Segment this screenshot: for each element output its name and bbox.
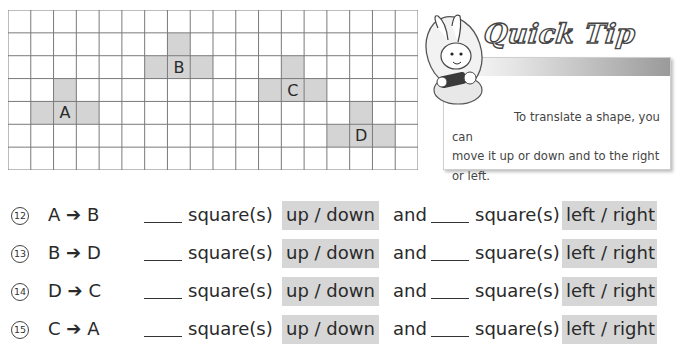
tip-line-2: move it up or down and to the right	[452, 147, 668, 167]
squares-label: square(s)	[475, 242, 560, 263]
from-shape: A	[48, 204, 60, 225]
question-number: 12	[11, 207, 29, 225]
up-down-text: up / down	[286, 318, 375, 339]
translation-pair: C ➔ A	[48, 318, 99, 339]
to-shape: D	[87, 242, 101, 263]
vertical-squares-blank[interactable]	[144, 298, 182, 299]
arrow-icon: ➔	[66, 318, 81, 339]
squares-label: square(s)	[475, 204, 560, 225]
horizontal-squares-blank[interactable]	[431, 298, 469, 299]
arrow-icon: ➔	[68, 280, 83, 301]
horizontal-squares-blank[interactable]	[431, 336, 469, 337]
question-number: 13	[11, 245, 29, 263]
to-shape: B	[87, 204, 99, 225]
vertical-squares-blank[interactable]	[144, 260, 182, 261]
up-down-choice[interactable]: up / down	[282, 239, 379, 268]
bunny-mascot-icon	[424, 10, 488, 112]
vertical-squares-blank[interactable]	[144, 336, 182, 337]
tip-text: To translate a shape, you can move it up…	[452, 108, 668, 186]
up-down-text: up / down	[286, 204, 375, 225]
squares-label: square(s)	[188, 204, 273, 225]
question-number: 14	[11, 283, 29, 301]
shape-label-d: D	[350, 124, 373, 147]
squares-label: square(s)	[475, 280, 560, 301]
to-shape: A	[87, 318, 99, 339]
translation-pair: A ➔ B	[48, 204, 99, 225]
and-label: and	[393, 242, 427, 263]
translation-pair: B ➔ D	[48, 242, 101, 263]
horizontal-squares-blank[interactable]	[431, 260, 469, 261]
question-row: 12 A ➔ B square(s) up / down and square(…	[0, 201, 685, 231]
left-right-text: left / right	[566, 280, 655, 301]
from-shape: C	[48, 318, 61, 339]
shape-label-b: B	[167, 56, 190, 79]
left-right-choice[interactable]: left / right	[562, 239, 657, 268]
translation-pair: D ➔ C	[48, 280, 101, 301]
squares-label: square(s)	[188, 280, 273, 301]
tip-title: Quick Tip	[482, 18, 637, 49]
arrow-icon: ➔	[66, 204, 81, 225]
left-right-choice[interactable]: left / right	[562, 277, 657, 306]
left-right-choice[interactable]: left / right	[562, 315, 657, 344]
from-shape: B	[48, 242, 60, 263]
squares-label: square(s)	[475, 318, 560, 339]
squares-label: square(s)	[188, 318, 273, 339]
left-right-choice[interactable]: left / right	[562, 201, 657, 230]
and-label: and	[393, 204, 427, 225]
question-row: 13 B ➔ D square(s) up / down and square(…	[0, 239, 685, 269]
tip-line-3: or left.	[452, 167, 668, 187]
shape-label-a: A	[54, 101, 77, 124]
up-down-choice[interactable]: up / down	[282, 277, 379, 306]
up-down-text: up / down	[286, 242, 375, 263]
shape-label-c: C	[281, 79, 304, 102]
squares-label: square(s)	[188, 242, 273, 263]
up-down-text: up / down	[286, 280, 375, 301]
left-right-text: left / right	[566, 318, 655, 339]
question-row: 15 C ➔ A square(s) up / down and square(…	[0, 315, 685, 345]
horizontal-squares-blank[interactable]	[431, 222, 469, 223]
and-label: and	[393, 318, 427, 339]
vertical-squares-blank[interactable]	[144, 222, 182, 223]
question-number: 15	[11, 321, 29, 339]
left-right-text: left / right	[566, 204, 655, 225]
arrow-icon: ➔	[66, 242, 81, 263]
question-row: 14 D ➔ C square(s) up / down and square(…	[0, 277, 685, 307]
tip-line-1: To translate a shape, you can	[452, 110, 660, 144]
up-down-choice[interactable]: up / down	[282, 201, 379, 230]
up-down-choice[interactable]: up / down	[282, 315, 379, 344]
left-right-text: left / right	[566, 242, 655, 263]
and-label: and	[393, 280, 427, 301]
from-shape: D	[48, 280, 62, 301]
to-shape: C	[88, 280, 101, 301]
